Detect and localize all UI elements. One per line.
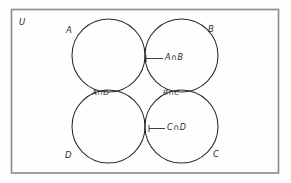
set-label-a: A bbox=[66, 26, 72, 35]
intersection-label-a-d: A∩D bbox=[92, 89, 109, 96]
intersection-label-b-c: B∩C bbox=[163, 89, 180, 96]
set-label-c: C bbox=[213, 150, 219, 159]
universal-set-rectangle bbox=[12, 10, 279, 174]
intersection-label-c-d: C∩D bbox=[167, 124, 186, 132]
universal-set-label: U bbox=[19, 18, 25, 27]
venn-canvas bbox=[0, 0, 291, 183]
circle-set-a bbox=[72, 19, 145, 92]
set-label-b: B bbox=[208, 25, 214, 34]
intersection-label-a-b: A∩B bbox=[165, 54, 184, 62]
callout-c-intersect-d bbox=[149, 125, 165, 132]
circle-set-d bbox=[72, 90, 145, 163]
venn-diagram: U A B C D A∩B A∩D B∩C C∩D bbox=[0, 0, 291, 183]
set-label-d: D bbox=[65, 151, 72, 160]
callout-a-intersect-b bbox=[146, 55, 163, 62]
